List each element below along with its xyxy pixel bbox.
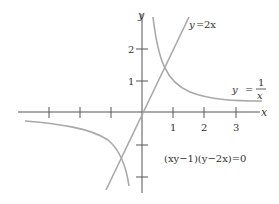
svg-text:y: y <box>231 84 238 95</box>
svg-text:1: 1 <box>258 77 264 88</box>
svg-text:=: = <box>245 84 253 95</box>
hyperbola-label: y = 1 x <box>231 77 266 101</box>
x-axis-label: x <box>261 106 268 119</box>
x-tick-label-3: 3 <box>233 122 239 133</box>
svg-text:2x: 2x <box>204 19 216 30</box>
graph: y x 1 2 3 2 1 y = 2x y = 1 x (xy−1)(y−2x… <box>0 0 279 204</box>
y-tick-label-2: 2 <box>128 44 134 55</box>
x-tick-label-2: 2 <box>201 122 207 133</box>
svg-text:y: y <box>188 19 195 30</box>
y-axis-label: y <box>137 9 145 22</box>
line-y-equals-2x <box>106 17 189 190</box>
line-label: y = 2x <box>188 19 216 30</box>
svg-text:x: x <box>257 90 263 101</box>
y-tick-label-1: 1 <box>128 76 134 87</box>
equation-label: (xy−1)(y−2x)=0 <box>164 153 246 164</box>
x-tick-label-1: 1 <box>170 122 176 133</box>
